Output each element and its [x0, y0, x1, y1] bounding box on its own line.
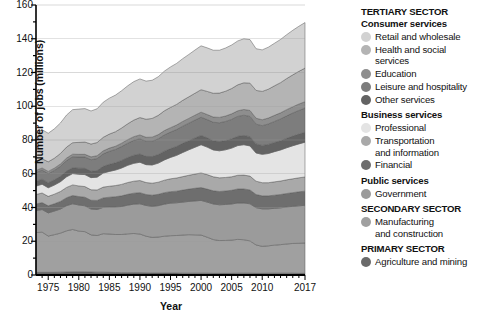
legend-item-label-line2: and construction [375, 228, 480, 239]
y-tick-label: 140 [7, 34, 33, 44]
legend-group-heading: Public services [361, 175, 480, 187]
legend-item[interactable]: Health and socialservices [361, 44, 480, 67]
legend-swatch-circle-icon [361, 136, 371, 146]
legend-item[interactable]: Education [361, 68, 480, 79]
legend-item[interactable]: Retail and wholesale [361, 31, 480, 42]
legend-item-label: Agriculture and mining [375, 256, 480, 267]
legend-swatch-circle-icon [361, 189, 371, 199]
x-tick-label: 2017 [288, 283, 322, 293]
legend-swatch-circle-icon [361, 69, 371, 79]
legend-item-label: Other services [375, 94, 480, 105]
x-tick-label: 1975 [31, 283, 65, 293]
legend-group-heading: PRIMARY SECTOR [361, 243, 480, 255]
legend-item[interactable]: Transportationand information [361, 135, 480, 158]
x-tick-label: 2000 [184, 283, 218, 293]
x-tick-label: 1990 [123, 283, 157, 293]
x-tick-label: 1980 [62, 283, 96, 293]
y-axis-title: Number of jobs (millions) [33, 17, 45, 187]
y-tick-label: 120 [7, 68, 33, 78]
legend-group-heading: TERTIARY SECTOR [361, 6, 480, 18]
legend-swatch-circle-icon [361, 45, 371, 55]
chart-legend: TERTIARY SECTORConsumer servicesRetail a… [361, 6, 480, 306]
y-tick-label: 60 [7, 169, 33, 179]
legend-swatch-circle-icon [361, 32, 371, 42]
y-tick-label: 160 [7, 0, 33, 10]
legend-item-label: Health and socialservices [375, 44, 480, 67]
legend-item-label: Government [375, 188, 480, 199]
legend-swatch-circle-icon [361, 123, 371, 133]
x-tick-label: 2010 [245, 283, 279, 293]
legend-swatch-circle-icon [361, 95, 371, 105]
y-tick-label: 20 [7, 236, 33, 246]
x-axis-title: Year [36, 300, 306, 312]
legend-swatch-circle-icon [361, 160, 371, 170]
legend-item[interactable]: Leisure and hospitality [361, 81, 480, 92]
legend-item-label: Manufacturingand construction [375, 216, 480, 239]
legend-item[interactable]: Manufacturingand construction [361, 216, 480, 239]
legend-swatch-circle-icon [361, 217, 371, 227]
legend-item-label: Professional [375, 122, 480, 133]
legend-item[interactable]: Financial [361, 159, 480, 170]
legend-group-subheading: Consumer services [361, 18, 480, 30]
legend-item[interactable]: Government [361, 188, 480, 199]
legend-item-label: Retail and wholesale [375, 31, 480, 42]
legend-swatch-circle-icon [361, 257, 371, 267]
y-tick-label: 80 [7, 135, 33, 145]
y-axis-tick-labels: 020406080100120140160 [0, 0, 33, 275]
legend-group-heading: Business services [361, 109, 480, 121]
legend-item[interactable]: Other services [361, 94, 480, 105]
legend-swatch-circle-icon [361, 82, 371, 92]
y-tick-label: 100 [7, 101, 33, 111]
legend-item-label: Leisure and hospitality [375, 81, 480, 92]
x-tick-label: 2005 [215, 283, 249, 293]
legend-item-label: Transportationand information [375, 135, 480, 158]
x-axis-tick-labels: 197519801985199019952000200520102017 [0, 283, 320, 297]
legend-item-label-line2: services [375, 55, 480, 66]
stacked-area-chart [0, 0, 320, 318]
chart-plot-region: 020406080100120140160 197519801985199019… [0, 0, 320, 318]
legend-item-label: Financial [375, 159, 480, 170]
x-tick-label: 1985 [92, 283, 126, 293]
legend-item-label-line2: and information [375, 147, 480, 158]
y-tick-label: 40 [7, 203, 33, 213]
chart-figure: 020406080100120140160 197519801985199019… [0, 0, 480, 318]
legend-group-heading: SECONDARY SECTOR [361, 203, 480, 215]
legend-item[interactable]: Agriculture and mining [361, 256, 480, 267]
y-tick-label: 0 [7, 270, 33, 280]
legend-item-label: Education [375, 68, 480, 79]
legend-item[interactable]: Professional [361, 122, 480, 133]
x-tick-label: 1995 [154, 283, 188, 293]
